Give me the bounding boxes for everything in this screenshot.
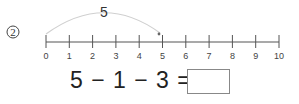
tick-label-0: 0	[43, 51, 48, 61]
tick-label-6: 6	[183, 51, 188, 61]
tick-label-2: 2	[90, 51, 95, 61]
equation-text: 5 − 1 − 3 =	[70, 66, 192, 94]
tick-label-3: 3	[113, 51, 118, 61]
jump-label: 5	[100, 4, 108, 20]
tick-label-7: 7	[207, 51, 212, 61]
arrow-head-icon	[158, 33, 161, 36]
tick-label-4: 4	[137, 51, 142, 61]
tick-labels: 012345678910	[43, 51, 284, 61]
tick-label-8: 8	[230, 51, 235, 61]
problem-number-badge: 2	[7, 26, 19, 38]
tick-label-1: 1	[67, 51, 72, 61]
tick-label-5: 5	[160, 51, 165, 61]
answer-input-box[interactable]	[187, 69, 230, 94]
tick-label-10: 10	[274, 51, 284, 61]
problem-number: 2	[10, 26, 16, 38]
tick-label-9: 9	[253, 51, 258, 61]
